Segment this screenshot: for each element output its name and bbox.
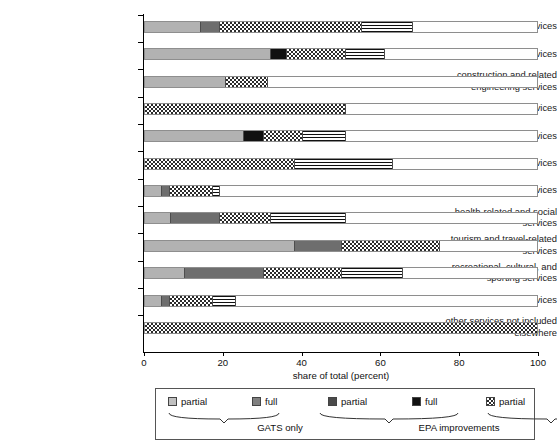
bar-row (144, 96, 538, 123)
stacked-bar (144, 185, 538, 197)
stacked-bar (144, 48, 538, 60)
stacked-bar (144, 158, 538, 170)
legend-swatch-icon (328, 397, 337, 406)
bar-segment-epa-new-full (212, 296, 236, 306)
y-axis-tick (138, 97, 143, 98)
bar-segment-gats-full (294, 241, 341, 251)
bar-segment-unbound (345, 104, 537, 114)
bar-row (144, 233, 538, 260)
bar-segment-unbound (219, 186, 537, 196)
bar-segment-gats-full (161, 296, 169, 306)
bar-segment-epa-new-partial (169, 296, 212, 306)
bar-segment-gats-partial (145, 131, 243, 141)
x-axis-tick-label: 40 (296, 357, 307, 368)
legend-item-epa-imp-partial[interactable]: partial (328, 396, 367, 407)
bar-row (144, 288, 538, 315)
bar-row (144, 260, 538, 287)
y-axis-tick (138, 124, 143, 125)
legend-item-epa-imp-full[interactable]: full (412, 396, 437, 407)
bar-segment-unbound (439, 241, 537, 251)
legend-item-gats-partial[interactable]: partial (168, 396, 207, 407)
y-axis-tick (138, 69, 143, 70)
x-axis-tick-label: 20 (217, 357, 228, 368)
bar-segment-epa-new-partial (286, 49, 345, 59)
bar-row (144, 14, 538, 41)
x-axis-tick-label: 60 (375, 357, 386, 368)
bar-segment-epa-new-full (302, 131, 345, 141)
bar-row (144, 315, 538, 342)
legend-item-label: partial (181, 396, 207, 407)
legend-group-brace-icon (168, 409, 280, 419)
bar-row (144, 41, 538, 68)
bar-row (144, 123, 538, 150)
x-axis-tick (302, 352, 303, 356)
bar-segment-epa-new-full (345, 49, 384, 59)
legend-item-label: full (425, 396, 437, 407)
bar-segment-epa-new-full (294, 159, 392, 169)
y-axis-tick (138, 315, 143, 316)
bar-segment-epa-new-partial (219, 22, 360, 32)
bar-segment-gats-partial (145, 77, 225, 87)
stacked-bar (144, 295, 538, 307)
legend-item-label: partial (341, 396, 367, 407)
bar-segment-epa-new-full (270, 213, 344, 223)
stacked-bar (144, 130, 538, 142)
stacked-bar (144, 212, 538, 224)
legend-group-brace-icon (319, 409, 459, 419)
bar-segment-epa-new-full (212, 186, 220, 196)
legend-swatch-icon (252, 397, 261, 406)
bar-segment-gats-partial (145, 213, 170, 223)
y-axis-tick (138, 288, 143, 289)
bar-segment-epa-new-partial (145, 323, 537, 333)
bar-segment-gats-partial (145, 22, 200, 32)
bar-segment-unbound (384, 49, 537, 59)
legend-group-brace-icon (487, 409, 557, 419)
stacked-bar (144, 322, 538, 334)
x-axis-tick (459, 352, 460, 356)
legend-item-epa-new-partial[interactable]: partial (486, 396, 525, 407)
bar-segment-epa-new-partial (169, 186, 212, 196)
x-axis-title: share of total (percent) (144, 370, 538, 381)
bar-segment-epa-imp-full (270, 49, 286, 59)
legend-item-gats-full[interactable]: full (252, 396, 277, 407)
bar-segment-epa-new-partial (145, 104, 345, 114)
stacked-bar (144, 267, 538, 279)
stacked-bar (144, 76, 538, 88)
y-axis-tick (138, 15, 143, 16)
bar-row (144, 151, 538, 178)
stacked-bar (144, 21, 538, 33)
bar-segment-gats-partial (145, 241, 294, 251)
x-axis-tick-label: 0 (141, 357, 146, 368)
legend-group-label: GATS only (257, 422, 303, 433)
bar-segment-epa-new-partial (145, 159, 294, 169)
x-axis-tick-label: 80 (454, 357, 465, 368)
legend-item-label: partial (499, 396, 525, 407)
bar-row (144, 178, 538, 205)
bar-segment-gats-full (200, 22, 220, 32)
x-axis-tick (538, 352, 539, 356)
bar-segment-gats-full (161, 186, 169, 196)
bar-segment-unbound (412, 22, 537, 32)
legend-swatch-icon (412, 397, 421, 406)
bar-segment-gats-full (170, 213, 219, 223)
bar-segment-epa-new-partial (219, 213, 270, 223)
bar-segment-unbound (345, 213, 537, 223)
bar-segment-epa-imp-full (243, 131, 263, 141)
bar-segment-unbound (345, 131, 537, 141)
bar-segment-gats-partial (145, 186, 161, 196)
bar-segment-unbound (267, 77, 537, 87)
bar-segment-epa-new-partial (225, 77, 266, 87)
legend-swatch-icon (168, 397, 177, 406)
bar-segment-gats-partial (145, 49, 270, 59)
stacked-bar (144, 240, 538, 252)
bar-segment-unbound (392, 159, 537, 169)
bar-segment-gats-partial (145, 296, 161, 306)
y-axis-tick (138, 261, 143, 262)
legend-swatch-icon (486, 397, 495, 406)
y-axis-tick (138, 233, 143, 234)
x-axis-tick (144, 352, 145, 356)
bar-row (144, 205, 538, 232)
x-axis-tick-label: 100 (530, 357, 546, 368)
bar-segment-gats-full (184, 268, 262, 278)
y-axis-tick (138, 42, 143, 43)
